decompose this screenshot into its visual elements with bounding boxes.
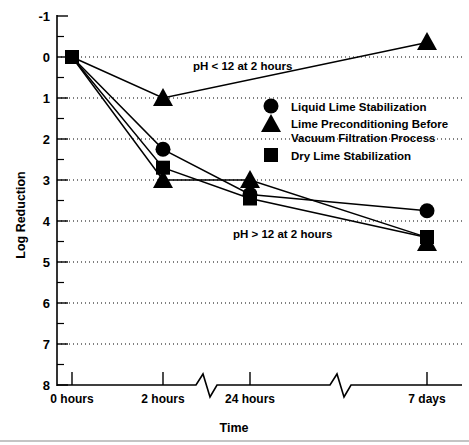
y-label-3: 3 (43, 173, 50, 188)
y-label-1: 1 (43, 91, 50, 106)
marker-circle-2h (156, 142, 171, 157)
legend-label-lime-preconditioning-line2: Vacuum Filtration Process (291, 132, 435, 144)
marker-square-0h (65, 50, 79, 64)
legend-label-lime-preconditioning-line1: Lime Preconditioning Before (291, 118, 448, 130)
legend-label-liquid-lime-stabilization: Liquid Lime Stabilization (291, 101, 426, 113)
y-label-7: 7 (43, 337, 50, 352)
x-label-2-hours: 2 hours (141, 392, 185, 406)
annotation-ph-less-than-12: pH < 12 at 2 hours (193, 60, 292, 72)
legend-circle-icon (264, 99, 279, 114)
chart-figure: -1 0 1 2 3 4 5 6 7 8 Log Reduction 0 hou… (0, 0, 469, 445)
y-label-8: 8 (43, 378, 50, 393)
x-label-0-hours: 0 hours (50, 392, 94, 406)
x-label-7-days: 7 days (408, 392, 446, 406)
y-label-4: 4 (43, 214, 51, 229)
x-axis-title: Time (220, 421, 249, 435)
marker-circle-7d (420, 203, 435, 218)
y-label-5: 5 (43, 255, 50, 270)
y-label-2: 2 (43, 132, 50, 147)
x-label-24-hours: 24 hours (225, 392, 275, 406)
y-label-6: 6 (43, 296, 50, 311)
legend-label-dry-lime-stabilization: Dry Lime Stabilization (291, 150, 411, 162)
marker-square-24h (243, 192, 257, 206)
annotation-ph-greater-than-12: pH > 12 at 2 hours (233, 228, 332, 240)
y-axis-title: Log Reduction (14, 171, 28, 259)
legend-square-icon (264, 148, 278, 162)
y-label--1: -1 (38, 9, 50, 24)
y-label-0: 0 (43, 50, 50, 65)
